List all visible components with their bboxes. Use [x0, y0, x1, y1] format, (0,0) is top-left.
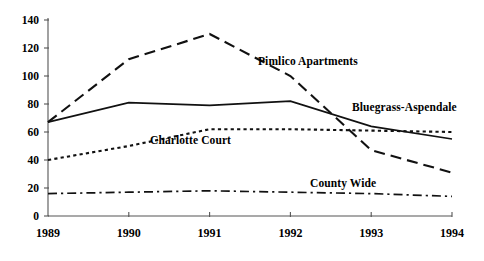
series-label: Charlotte Court [150, 134, 231, 146]
y-axis-tick-label: 80 [28, 98, 40, 110]
line-chart: 020406080100120140 198919901991199219931… [0, 0, 484, 261]
x-axis-tick-label: 1989 [36, 226, 60, 240]
series-line [48, 191, 452, 197]
chart-plot-area: 020406080100120140 198919901991199219931… [0, 0, 484, 261]
series-label: County Wide [310, 177, 376, 189]
y-axis-tick-label: 120 [22, 42, 40, 54]
y-axis-tick-label: 100 [22, 70, 40, 82]
series-lines [48, 34, 452, 196]
x-axis: 198919901991199219931994 [36, 212, 464, 240]
x-axis-tick-label: 1990 [117, 226, 141, 240]
y-axis: 020406080100120140 [22, 14, 49, 222]
x-axis-tick-label: 1994 [440, 226, 464, 240]
x-axis-tick-label: 1992 [278, 226, 302, 240]
series-label: Pimlico Apartments [258, 55, 358, 67]
y-axis-tick-label: 20 [28, 182, 40, 194]
y-axis-tick-label: 40 [28, 154, 40, 166]
x-axis-tick-label: 1993 [359, 226, 383, 240]
series-label: Bluegrass-Aspendale [352, 101, 457, 113]
y-axis-tick-label: 60 [28, 126, 40, 138]
x-axis-tick-label: 1991 [198, 226, 222, 240]
y-axis-tick-label: 140 [22, 14, 40, 26]
y-axis-tick-label: 0 [33, 210, 39, 222]
